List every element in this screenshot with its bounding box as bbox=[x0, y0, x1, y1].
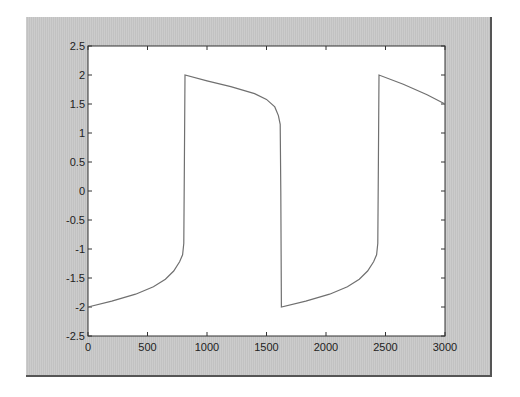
y-tick-label: -2.5 bbox=[66, 330, 85, 342]
x-tick-label: 1500 bbox=[254, 341, 278, 353]
x-tick-label: 500 bbox=[138, 341, 156, 353]
x-tick-label: 0 bbox=[85, 341, 91, 353]
y-tick-label: -0.5 bbox=[66, 214, 85, 226]
x-tick-label: 2500 bbox=[373, 341, 397, 353]
y-tick-label: 1 bbox=[79, 127, 85, 139]
x-tick-label: 1000 bbox=[195, 341, 219, 353]
plot-area bbox=[88, 46, 445, 336]
y-tick-label: -2 bbox=[75, 301, 85, 313]
x-tick-label: 2000 bbox=[314, 341, 338, 353]
line-chart: -2.5-2-1.5-1-0.500.511.522.5 05001000150… bbox=[0, 0, 520, 397]
y-tick-label: 0.5 bbox=[70, 156, 85, 168]
y-tick-label: 0 bbox=[79, 185, 85, 197]
y-tick-label: -1 bbox=[75, 243, 85, 255]
y-tick-label: -1.5 bbox=[66, 272, 85, 284]
x-tick-label: 3000 bbox=[433, 341, 457, 353]
y-tick-label: 2.5 bbox=[70, 40, 85, 52]
y-tick-label: 2 bbox=[79, 69, 85, 81]
y-tick-label: 1.5 bbox=[70, 98, 85, 110]
